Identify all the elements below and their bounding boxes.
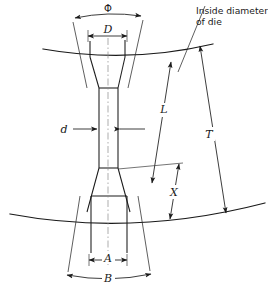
note-line-1: Inside diameter [196,5,268,16]
note-inside-diameter-of-die: Inside diameter of die [178,5,268,72]
dimension-T-group: T [200,46,226,213]
dimension-label-L-text: L [159,103,167,116]
dimension-X-group: X [118,163,183,219]
dimension-diagram-svg: Φ D d L L T [0,0,268,290]
dimension-label-D: D [103,23,113,36]
dimension-label-X: X [169,186,179,199]
upper-right-flare-guide [128,20,143,88]
dimension-D-group: D [88,23,127,42]
dimension-label-B: B [103,272,112,285]
dimension-d-group: d [60,123,145,136]
dimension-phi-group: Φ [75,3,141,18]
dimension-label-phi: Φ [104,3,112,14]
figure-container: Φ D d L L T [0,0,268,290]
phi-dimension-arc [75,14,141,18]
dimension-B-group: B [67,271,151,285]
lower-right-flare-guide [138,196,150,271]
X-top-reference-line [118,163,183,169]
upper-taper-left [90,57,99,88]
die-lower-curve-group [10,203,265,223]
lower-left-flare-guide [68,196,80,272]
upper-taper-right [118,57,125,88]
dimension-label-d: d [60,123,67,136]
dimension-A-group: A [89,251,127,266]
dimension-label-A: A [103,252,112,265]
lower-taper-right [118,168,130,212]
note-line-2: of die [196,16,222,27]
die-lower-curve [10,203,265,223]
lower-taper-left [87,168,99,212]
upper-left-flare-guide [73,22,87,88]
specimen-outline-group [68,20,150,272]
